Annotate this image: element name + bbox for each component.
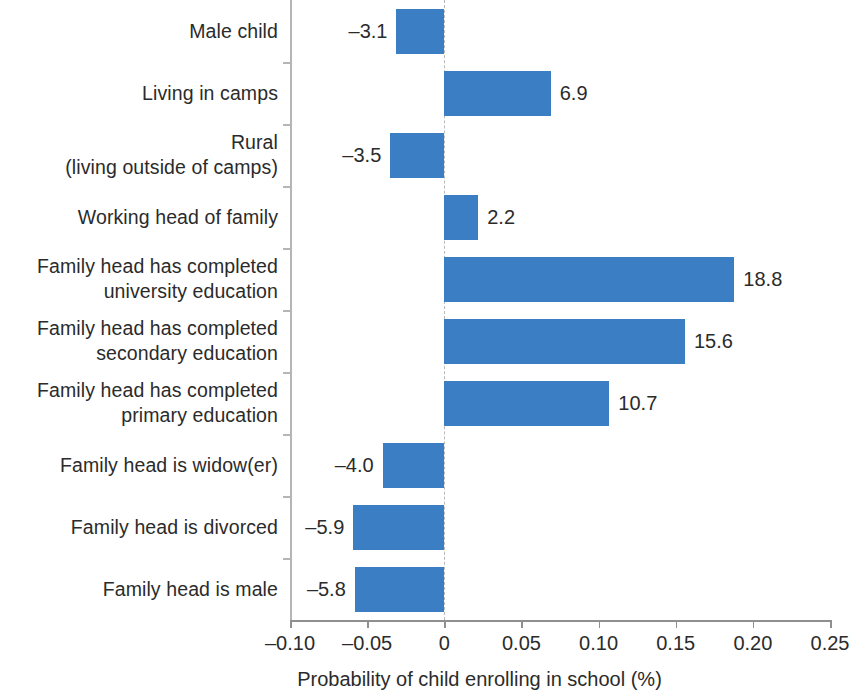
bar-value-label: 15.6: [694, 319, 733, 364]
bar: [390, 133, 444, 178]
x-axis-tick: [290, 620, 292, 628]
bar-value-label: 18.8: [743, 257, 782, 302]
x-axis-tick-label: 0.20: [733, 632, 772, 655]
x-axis-tick-label: 0: [439, 632, 450, 655]
x-axis-tick-label: 0.05: [502, 632, 541, 655]
category-label: Family head has completed university edu…: [0, 254, 278, 304]
x-axis-tick: [676, 620, 678, 628]
bar-value-label: –4.0: [335, 443, 374, 488]
x-axis-title-text: Probability of child enrolling in school…: [297, 668, 662, 690]
bar-value-label: –5.9: [305, 505, 344, 550]
x-axis-tick: [367, 620, 369, 628]
category-label: Family head has completed secondary educ…: [0, 316, 278, 366]
bar: [444, 257, 734, 302]
bar: [396, 9, 444, 54]
category-axis-labels: Male childLiving in campsRural (living o…: [0, 0, 278, 620]
category-label: Working head of family: [0, 205, 278, 230]
category-label: Rural (living outside of camps): [0, 130, 278, 180]
x-axis-title: Probability of child enrolling in school…: [0, 668, 847, 691]
category-label: Male child: [0, 19, 278, 44]
x-axis-tick: [521, 620, 523, 628]
bar-value-label: –3.5: [342, 133, 381, 178]
bar: [353, 505, 444, 550]
category-label: Family head has completed primary educat…: [0, 378, 278, 428]
y-axis-tick: [283, 62, 290, 64]
plot-area: –3.16.9–3.52.218.815.610.7–4.0–5.9–5.8: [290, 0, 830, 620]
bar: [444, 71, 550, 116]
y-axis-tick: [283, 496, 290, 498]
x-axis-tick-label: –0.10: [265, 632, 315, 655]
x-axis-tick-label: –0.05: [342, 632, 392, 655]
category-label: Family head is widow(er): [0, 453, 278, 478]
x-axis-tick-label: 0.15: [656, 632, 695, 655]
bar: [444, 319, 685, 364]
x-axis-tick-label: 0.10: [579, 632, 618, 655]
y-axis-line: [290, 0, 292, 620]
bar: [383, 443, 445, 488]
y-axis-tick: [283, 248, 290, 250]
y-axis-tick: [283, 310, 290, 312]
bar-value-label: 10.7: [618, 381, 657, 426]
bar: [444, 381, 609, 426]
x-axis-tick: [753, 620, 755, 628]
x-axis-tick: [599, 620, 601, 628]
bar: [355, 567, 444, 612]
x-axis-tick-label: 0.25: [811, 632, 849, 655]
y-axis-tick: [283, 434, 290, 436]
x-axis-tick: [444, 620, 446, 628]
category-label: Family head is male: [0, 577, 278, 602]
bar-value-label: 2.2: [487, 195, 515, 240]
bar: [444, 195, 478, 240]
y-axis-tick: [283, 372, 290, 374]
y-axis-tick: [283, 186, 290, 188]
bar-value-label: –3.1: [349, 9, 388, 54]
x-axis-line: [290, 620, 830, 622]
x-axis-tick: [830, 620, 832, 628]
bar-value-label: 6.9: [560, 71, 588, 116]
bar-value-label: –5.8: [307, 567, 346, 612]
y-axis-tick: [283, 558, 290, 560]
y-axis-tick: [283, 124, 290, 126]
category-label: Living in camps: [0, 81, 278, 106]
category-label: Family head is divorced: [0, 515, 278, 540]
